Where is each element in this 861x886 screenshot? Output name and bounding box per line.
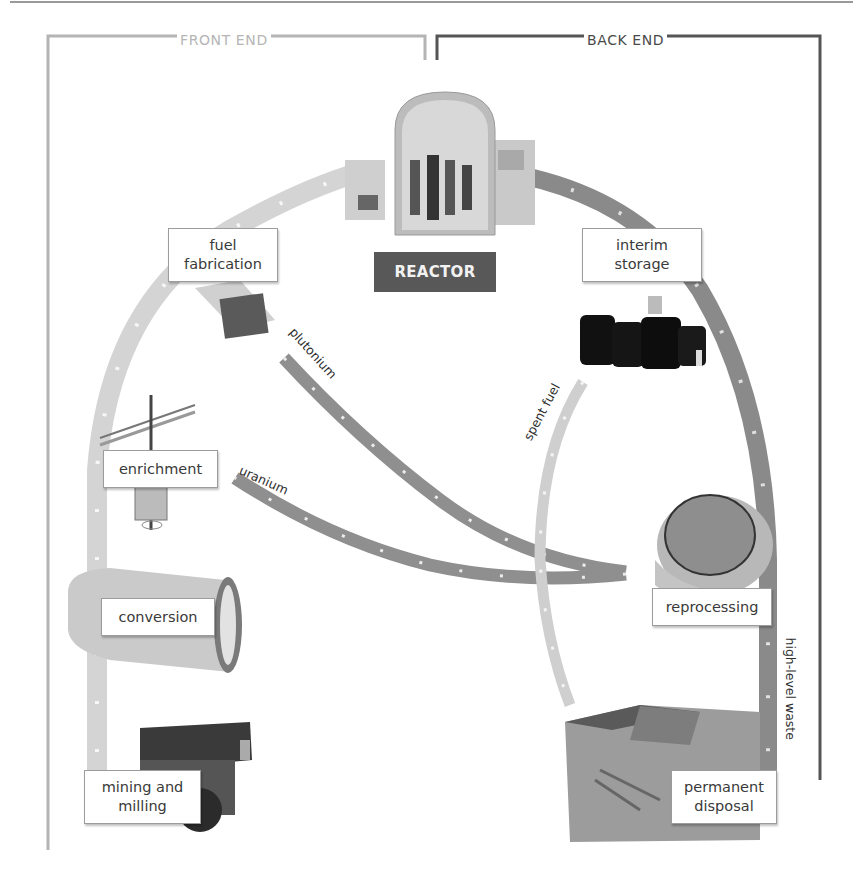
stage-conversion: conversion (101, 598, 215, 636)
storage-casks-image (580, 296, 706, 369)
fuel-assembly-image (195, 280, 275, 339)
reactor-label: REACTOR (374, 252, 496, 292)
stage-label-line2: disposal (694, 797, 753, 816)
flow-label-high-level-waste: high-level waste (783, 638, 798, 740)
stage-label-line2: fabrication (184, 255, 262, 274)
stage-label-line1: fuel (209, 236, 236, 255)
stage-label-line2: milling (118, 797, 167, 816)
spent-fuel-arrow (540, 382, 583, 705)
reactor-image (345, 92, 535, 235)
stage-label-line1: enrichment (119, 460, 202, 479)
stage-enrichment: enrichment (103, 450, 218, 488)
stage-reprocessing: reprocessing (652, 588, 772, 626)
stage-mining-and-milling: mining and milling (84, 770, 201, 824)
stage-permanent-disposal: permanent disposal (671, 770, 777, 824)
stage-label-line1: conversion (118, 608, 197, 627)
stage-label-line2: storage (614, 255, 669, 274)
stage-label-line1: permanent (684, 778, 764, 797)
stage-label-line1: interim (616, 236, 668, 255)
front-end-title: FRONT END (177, 32, 271, 48)
stage-fuel-fabrication: fuel fabrication (168, 228, 278, 282)
stage-label-line1: mining and (102, 778, 184, 797)
stage-interim-storage: interim storage (582, 228, 702, 282)
back-end-title: BACK END (584, 32, 667, 48)
stage-label-line1: reprocessing (666, 598, 759, 617)
fuel-cycle-diagram (0, 0, 861, 886)
